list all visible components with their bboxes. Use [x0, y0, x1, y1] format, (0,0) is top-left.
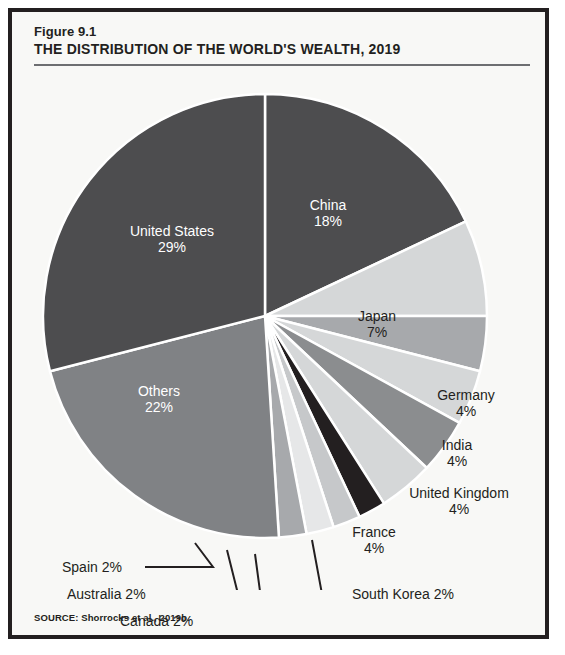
slice-callout-south-korea: South Korea 2%: [352, 586, 454, 602]
slice-label-others-pct: 22%: [104, 400, 214, 416]
slice-label-india-name: India: [442, 437, 472, 453]
slice-label-india-pct: 4%: [417, 454, 497, 470]
source-note: SOURCE: Shorrocks et al., 2019b.: [34, 612, 190, 623]
slice-label-germany-pct: 4%: [412, 404, 520, 420]
pie-slice-group: [43, 94, 487, 538]
page-title: THE DISTRIBUTION OF THE WORLD'S WEALTH, …: [34, 41, 401, 57]
slice-label-france-name: France: [352, 524, 396, 540]
figure-number: Figure 9.1: [34, 24, 96, 39]
figure-body: Figure 9.1 THE DISTRIBUTION OF THE WORLD…: [12, 12, 545, 635]
leader-line-spain: [145, 543, 213, 567]
slice-label-china-pct: 18%: [288, 214, 368, 230]
slice-label-japan: Japan 7%: [337, 309, 417, 340]
slice-callout-australia: Australia 2%: [67, 586, 146, 602]
slice-label-others: Others 22%: [104, 384, 214, 415]
slice-label-japan-name: Japan: [358, 308, 396, 324]
slice-label-united-kingdom-pct: 4%: [379, 502, 539, 518]
slice-label-germany: Germany 4%: [412, 388, 520, 419]
slice-label-united-kingdom-name: United Kingdom: [409, 485, 509, 501]
slice-label-united-kingdom: United Kingdom 4%: [379, 486, 539, 517]
slice-label-japan-pct: 7%: [337, 325, 417, 341]
slice-label-china-name: China: [310, 197, 347, 213]
slice-callout-spain: Spain 2%: [62, 559, 122, 575]
slice-label-united-states: United States 29%: [107, 224, 237, 255]
figure-frame: Figure 9.1 THE DISTRIBUTION OF THE WORLD…: [8, 8, 549, 639]
slice-label-others-name: Others: [138, 383, 180, 399]
slice-label-united-states-pct: 29%: [107, 240, 237, 256]
title-divider: [34, 64, 530, 66]
pie-chart: United States 29% Others 22% China 18% J…: [12, 70, 545, 590]
leader-line-australia: [165, 550, 238, 590]
slice-label-united-states-name: United States: [130, 223, 214, 239]
slice-label-france: France 4%: [334, 525, 414, 556]
slice-label-france-pct: 4%: [334, 541, 414, 557]
slice-label-china: China 18%: [288, 198, 368, 229]
slice-label-germany-name: Germany: [437, 387, 495, 403]
callout-leader-lines: [145, 540, 344, 590]
slice-label-india: India 4%: [417, 438, 497, 469]
